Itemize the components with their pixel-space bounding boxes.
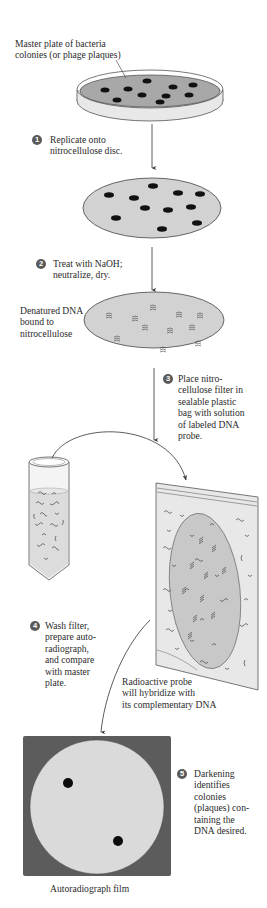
label-autoradiograph-film: Autoradiograph film — [50, 883, 129, 894]
step-4: 4 Wash filter, prepare auto- radiograph,… — [30, 620, 35, 654]
arrow-tube-to-bag — [52, 432, 186, 480]
label-radioactive-probe: Radioactive probe will hybridize with it… — [122, 676, 216, 710]
label-denatured-dna: Denatured DNA bound to nitrocellulose — [20, 305, 83, 339]
nitrocellulose-disc — [83, 178, 221, 238]
step-2: 2 Treat with NaOH; neutralize, dry. — [34, 258, 39, 292]
sealed-bag — [156, 483, 258, 690]
label-master-plate: Master plate of bacteria colonies (or ph… — [15, 38, 121, 61]
step-badge-5: 5 — [177, 769, 187, 779]
step-1-text: Replicate onto nitrocellulose disc. — [50, 134, 122, 157]
step-5: 5 Darkening identifies colonies (plaques… — [177, 768, 182, 802]
step-4-text: Wash filter, prepare auto- radiograph, a… — [45, 620, 96, 688]
step-1: 1 Replicate onto nitrocellulose disc. — [34, 134, 39, 168]
master-plate — [77, 60, 223, 121]
step-badge-2: 2 — [36, 259, 46, 269]
denatured-dna-disc — [84, 292, 224, 352]
step-3-text: Place nitro- cellulose filter in sealabl… — [178, 373, 245, 441]
step-badge-1: 1 — [32, 135, 42, 145]
autoradiograph-film — [23, 736, 171, 876]
step-2-text: Treat with NaOH; neutralize, dry. — [53, 258, 122, 281]
step-5-text: Darkening identifies colonies (plaques) … — [194, 768, 249, 836]
probe-tube — [29, 457, 69, 580]
step-badge-4: 4 — [30, 621, 40, 631]
step-3: 3 Place nitro- cellulose filter in seala… — [163, 373, 168, 407]
step-badge-3: 3 — [163, 374, 173, 384]
